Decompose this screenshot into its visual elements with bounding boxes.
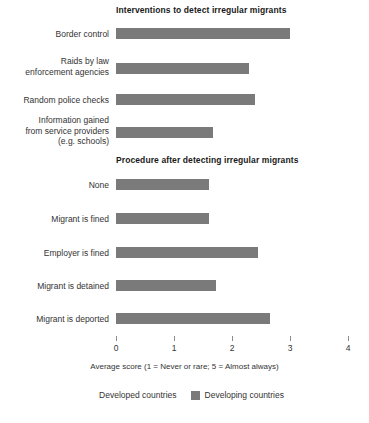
bar-developing-migrant-is-deported	[116, 313, 270, 324]
label-line: from service providers	[25, 126, 109, 137]
label-line: Migrant is detained	[37, 281, 109, 292]
category-label-migrant-is-fined: Migrant is fined	[51, 214, 109, 225]
legend-swatch-icon	[191, 391, 200, 400]
x-axis: 01234	[0, 336, 369, 358]
legend-label-developed: Developed countries	[99, 390, 177, 400]
category-label-random-police-checks: Random police checks	[23, 95, 109, 106]
bar-developing-random-police-checks	[116, 94, 255, 105]
category-label-migrant-is-deported: Migrant is deported	[36, 314, 109, 325]
bar-developing-border-control	[116, 28, 290, 39]
category-label-none: None	[89, 180, 109, 191]
label-line: Employer is fined	[44, 248, 109, 259]
bar-developing-none	[116, 179, 209, 190]
x-axis-caption: Average score (1 = Never or rare; 5 = Al…	[0, 362, 369, 371]
label-line: Random police checks	[23, 95, 109, 106]
label-line: None	[89, 180, 109, 191]
bar-developing-information-gained	[116, 127, 213, 138]
label-line: Migrant is fined	[51, 214, 109, 225]
bar-developing-migrant-is-fined	[116, 213, 209, 224]
bar-developing-employer-is-fined	[116, 247, 258, 258]
category-label-raids: Raids by law enforcement agencies	[25, 56, 109, 77]
axis-tick-label: 1	[164, 343, 184, 353]
legend-label-developing: Developing countries	[205, 390, 284, 400]
label-line: enforcement agencies	[25, 67, 109, 78]
bar-developing-migrant-is-detained	[116, 280, 216, 291]
axis-tick-label: 2	[222, 343, 242, 353]
axis-tick-mark	[174, 336, 175, 341]
label-line: Information gained	[25, 115, 109, 126]
legend-item-developed: Developed countries	[85, 390, 177, 400]
label-line: Migrant is deported	[36, 314, 109, 325]
axis-tick-label: 4	[338, 343, 358, 353]
axis-tick-mark	[348, 336, 349, 341]
panel-title-interventions: Interventions to detect irregular migran…	[116, 5, 286, 15]
panel-title-procedure: Procedure after detecting irregular migr…	[116, 155, 298, 165]
legend-swatch-icon	[85, 391, 94, 400]
chart-legend: Developed countries Developing countries	[0, 390, 369, 400]
axis-tick-label: 3	[280, 343, 300, 353]
bar-chart-figure: Interventions to detect irregular migran…	[0, 0, 369, 423]
category-label-border-control: Border control	[56, 29, 109, 40]
legend-item-developing: Developing countries	[191, 390, 284, 400]
category-label-information-gained: Information gained from service provider…	[25, 115, 109, 147]
category-label-employer-is-fined: Employer is fined	[44, 248, 109, 259]
axis-tick-mark	[290, 336, 291, 341]
label-line: Raids by law	[25, 56, 109, 67]
bar-developing-raids	[116, 63, 249, 74]
axis-tick-label: 0	[106, 343, 126, 353]
label-line: Border control	[56, 29, 109, 40]
axis-tick-mark	[232, 336, 233, 341]
category-label-migrant-is-detained: Migrant is detained	[37, 281, 109, 292]
axis-tick-mark	[116, 336, 117, 341]
label-line: (e.g. schools)	[25, 136, 109, 147]
